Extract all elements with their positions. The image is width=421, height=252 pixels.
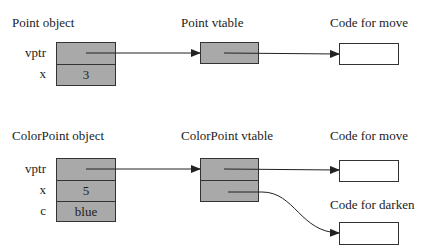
colorpoint-darken-arrow xyxy=(228,192,339,233)
pointer-arrows xyxy=(0,0,421,252)
colorpoint-move-arrow xyxy=(224,169,339,170)
point-move-arrow xyxy=(224,53,339,54)
